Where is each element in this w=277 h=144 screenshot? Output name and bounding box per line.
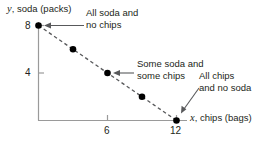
annotation-line: some chips (137, 70, 204, 82)
annotation-some-soda-some-chips: Some soda and some chips (137, 58, 204, 82)
annotation-all-soda-no-chips: All soda and no chips (86, 7, 138, 31)
data-point (35, 22, 42, 29)
annotation-line: and no soda (199, 82, 251, 94)
annotation-line: Some soda and (137, 58, 204, 70)
data-point (104, 70, 111, 77)
annotation-arrow-some-soda-some-chips (113, 70, 134, 76)
annotation-line: no chips (86, 19, 138, 31)
annotation-all-chips-no-soda: All chips and no soda (199, 70, 251, 94)
data-point (139, 94, 146, 101)
x-axis-label-text: , chips (bags) (195, 112, 252, 123)
data-point (70, 46, 77, 53)
y-axis-label-text: , soda (packs) (12, 3, 72, 14)
annotation-line: All soda and (86, 7, 138, 19)
annotation-arrow-all-soda-no-chips (44, 23, 84, 29)
x-axis-label: x, chips (bags) (190, 113, 252, 124)
data-point (173, 117, 180, 124)
chart-figure: y, soda (packs) x, chips (bags) 8 4 6 12… (0, 0, 277, 144)
annotation-arrow-all-chips-no-soda (181, 88, 199, 114)
y-axis-label: y, soda (packs) (7, 4, 71, 15)
x-tick-label-6: 6 (104, 126, 110, 136)
y-tick-label-4: 4 (25, 68, 31, 78)
annotation-line: All chips (199, 70, 251, 82)
y-tick-label-8: 8 (25, 21, 31, 31)
x-tick-label-12: 12 (170, 126, 181, 136)
